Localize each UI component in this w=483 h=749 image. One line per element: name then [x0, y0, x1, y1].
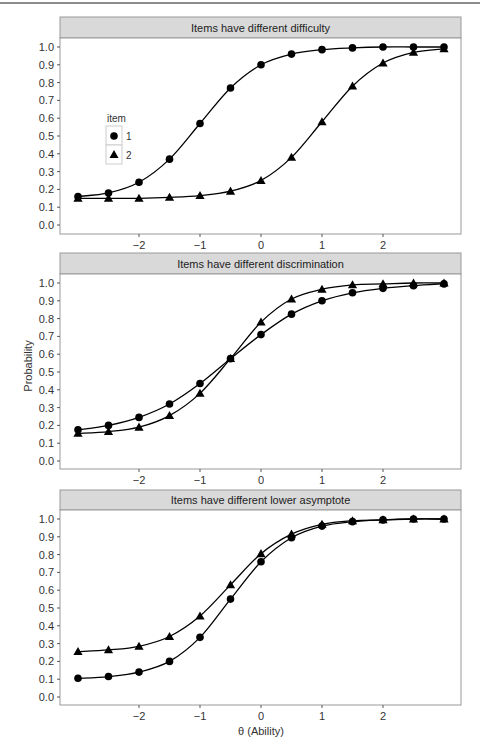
y-tick-label: 1.0: [39, 41, 54, 53]
circle-marker: [288, 50, 296, 58]
circle-marker: [166, 658, 174, 666]
y-tick-label: 0.5: [39, 130, 54, 142]
plot-area: [60, 274, 461, 469]
panel-title: Items have different difficulty: [191, 22, 330, 34]
x-tick-label: 1: [319, 710, 325, 722]
y-tick-label: 0.3: [39, 638, 54, 650]
y-tick-label: 0.8: [39, 313, 54, 325]
y-tick-label: 0.8: [39, 77, 54, 89]
x-tick-label: 0: [258, 239, 264, 251]
y-tick-label: 0.1: [39, 437, 54, 449]
y-tick-label: 0.2: [39, 655, 54, 667]
circle-marker: [227, 595, 235, 603]
legend-title: item: [107, 113, 126, 124]
y-tick-label: 0.5: [39, 366, 54, 378]
circle-marker: [257, 61, 265, 69]
y-tick-label: 0.4: [39, 620, 54, 632]
circle-marker: [318, 297, 326, 305]
x-tick-label: 1: [319, 474, 325, 486]
y-tick-label: 0.7: [39, 566, 54, 578]
y-tick-label: 0.6: [39, 348, 54, 360]
x-tick-label: −1: [194, 474, 207, 486]
circle-marker: [227, 84, 235, 92]
y-tick-label: 0.4: [39, 384, 54, 396]
circle-marker: [196, 634, 204, 642]
legend-label-1: 1: [126, 131, 132, 142]
y-tick-label: 0.5: [39, 602, 54, 614]
x-tick-label: −1: [194, 710, 207, 722]
circle-marker: [135, 414, 143, 422]
circle-marker: [288, 310, 296, 318]
circle-marker: [135, 178, 143, 186]
y-tick-label: 0.8: [39, 549, 54, 561]
x-tick-label: −2: [133, 474, 146, 486]
circle-marker: [349, 289, 357, 297]
x-tick-label: −2: [133, 710, 146, 722]
legend-label-2: 2: [126, 150, 132, 161]
circle-marker: [166, 400, 174, 408]
y-tick-label: 1.0: [39, 513, 54, 525]
circle-marker: [257, 331, 265, 339]
panel-title: Items have different lower asymptote: [171, 494, 351, 506]
y-tick-label: 0.6: [39, 584, 54, 596]
x-tick-label: 1: [319, 239, 325, 251]
circle-marker: [196, 120, 204, 128]
figure: Items have different difficulty0.00.10.2…: [0, 0, 483, 749]
y-tick-label: 0.0: [39, 455, 54, 467]
x-tick-label: −2: [133, 239, 146, 251]
x-tick-label: 0: [258, 710, 264, 722]
panel-1: Items have different difficulty0.00.10.2…: [39, 17, 461, 251]
y-tick-label: 0.3: [39, 402, 54, 414]
circle-marker: [166, 155, 174, 163]
y-tick-label: 0.3: [39, 166, 54, 178]
x-axis-label: θ (Ability): [238, 725, 284, 737]
x-tick-label: 2: [380, 474, 386, 486]
circle-marker: [257, 558, 265, 566]
x-tick-label: 0: [258, 474, 264, 486]
x-tick-label: 2: [380, 710, 386, 722]
y-tick-label: 0.0: [39, 219, 54, 231]
y-axis-label: Probability: [22, 340, 34, 392]
y-tick-label: 0.9: [39, 295, 54, 307]
y-tick-label: 0.2: [39, 419, 54, 431]
y-tick-label: 0.0: [39, 691, 54, 703]
y-tick-label: 0.6: [39, 112, 54, 124]
y-tick-label: 0.4: [39, 148, 54, 160]
circle-marker: [318, 46, 326, 54]
circle-marker: [135, 668, 143, 676]
panel-3: Items have different lower asymptote0.00…: [39, 490, 461, 722]
panel-2: Items have different discrimination0.00.…: [39, 253, 461, 486]
x-tick-label: −1: [194, 239, 207, 251]
circle-marker: [379, 43, 387, 51]
y-tick-label: 0.9: [39, 531, 54, 543]
circle-marker: [74, 675, 82, 683]
circle-marker: [349, 44, 357, 52]
circle-marker: [196, 380, 204, 388]
circle-icon: [110, 132, 118, 140]
y-tick-label: 0.9: [39, 59, 54, 71]
y-tick-label: 0.7: [39, 94, 54, 106]
y-tick-label: 0.1: [39, 201, 54, 213]
y-tick-label: 0.2: [39, 183, 54, 195]
y-tick-label: 0.7: [39, 330, 54, 342]
y-tick-label: 1.0: [39, 277, 54, 289]
panel-title: Items have different discrimination: [177, 258, 344, 270]
x-tick-label: 2: [380, 239, 386, 251]
y-tick-label: 0.1: [39, 673, 54, 685]
circle-marker: [105, 673, 113, 681]
